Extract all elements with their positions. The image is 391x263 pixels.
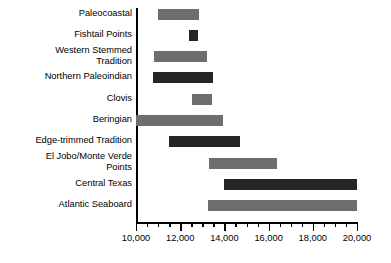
category-label: Edge-trimmed Tradition [0,135,132,146]
x-tick-major [136,222,137,231]
x-tick-minor [158,222,159,227]
x-tick-minor [280,222,281,227]
range-bar [189,30,198,41]
x-tick-major [269,222,270,231]
x-tick-major [224,222,225,231]
x-tick-minor [235,222,236,227]
range-bar [209,158,278,169]
chart-figure: PaleocoastalFishtail PointsWestern Stemm… [0,0,391,263]
range-bar [158,9,199,20]
x-tick-minor [335,222,336,227]
x-tick-label: 20,000 [327,233,387,243]
x-tick-minor [191,222,192,227]
x-tick-minor [324,222,325,227]
x-tick-minor [346,222,347,227]
category-label: Western Stemmed Tradition [0,45,132,67]
x-tick-minor [169,222,170,227]
range-bar [154,51,207,62]
category-label: Paleocoastal [0,8,132,19]
x-tick-minor [291,222,292,227]
x-axis: 10,00012,00014,00016,00018,00020,000 [136,222,366,263]
range-bar [224,179,357,190]
range-bar [169,136,240,147]
category-label: Clovis [0,93,132,104]
category-label: Atlantic Seaboard [0,199,132,210]
x-tick-minor [202,222,203,227]
range-bar [208,200,357,211]
x-tick-minor [302,222,303,227]
category-axis-labels: PaleocoastalFishtail PointsWestern Stemm… [0,0,132,222]
x-tick-major [180,222,181,231]
range-bar [153,72,214,83]
range-bar [136,115,223,126]
x-tick-major [313,222,314,231]
x-tick-minor [147,222,148,227]
x-tick-minor [247,222,248,227]
category-label: Fishtail Points [0,29,132,40]
category-label: Central Texas [0,178,132,189]
x-tick-minor [258,222,259,227]
x-tick-major [357,222,358,231]
category-label: Beringian [0,114,132,125]
x-tick-minor [213,222,214,227]
category-label: El Jobo/Monte Verde Points [0,151,132,173]
range-bar [192,94,212,105]
plot-area [136,0,366,222]
category-label: Northern Paleoindian [0,71,132,82]
